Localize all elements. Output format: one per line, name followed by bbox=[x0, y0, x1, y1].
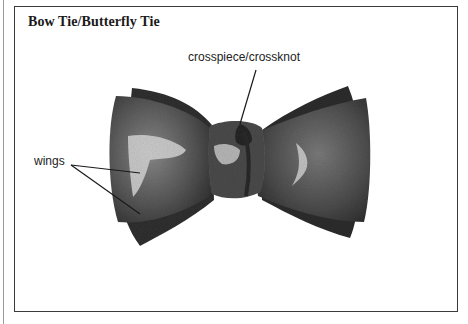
bow-tie-illustration bbox=[0, 0, 468, 324]
left-wing bbox=[109, 88, 214, 246]
right-wing bbox=[255, 86, 370, 238]
crosspiece-knot bbox=[209, 121, 265, 198]
crosspiece-leader-line bbox=[240, 70, 256, 124]
